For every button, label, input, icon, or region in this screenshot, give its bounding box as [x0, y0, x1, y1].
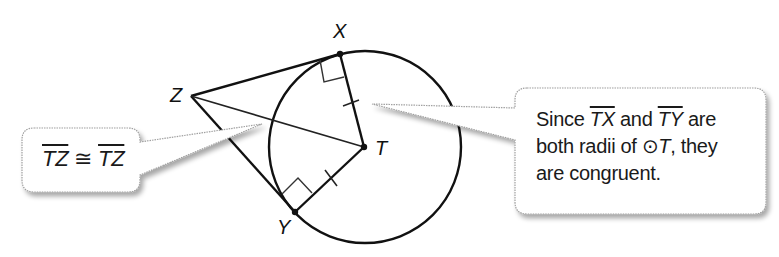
callout-right-text: Since TX and TY are both radii of ⊙T, th… — [536, 106, 717, 187]
callout-right-line-3: are congruent. — [536, 160, 717, 187]
label-Y: Y — [277, 216, 290, 239]
label-Z: Z — [170, 84, 182, 107]
segment-TX — [340, 54, 364, 147]
right-angle-mark-X — [320, 60, 344, 82]
point-X — [337, 51, 343, 57]
label-X: X — [333, 20, 346, 43]
segment-TY — [295, 147, 364, 212]
segment-ZY — [191, 96, 295, 212]
segment-TZ-b: TZ — [98, 146, 124, 171]
text: and — [615, 108, 658, 130]
point-Y — [292, 209, 298, 215]
segment-ZX — [191, 54, 340, 96]
callout-right-line-1: Since TX and TY are — [536, 106, 717, 133]
text: are — [683, 108, 716, 130]
point-T — [361, 144, 367, 150]
diagram-stage: X Z T Y TZ ≅ TZ Since TX and TY are both… — [0, 0, 779, 257]
right-angle-mark-Y — [282, 178, 312, 194]
congruent-symbol: ≅ — [74, 146, 92, 171]
text: , they — [670, 135, 717, 157]
circle-name: T — [658, 135, 670, 157]
segment-TZ-a: TZ — [42, 146, 68, 171]
segment-TX: TX — [590, 108, 615, 130]
segment-TY: TY — [658, 108, 683, 130]
callout-right-line-2: both radii of ⊙T, they — [536, 133, 717, 160]
text: both radii of — [536, 135, 642, 157]
circle-dot-icon: ⊙ — [642, 135, 658, 157]
label-T: T — [375, 137, 387, 160]
callout-left-text: TZ ≅ TZ — [42, 145, 124, 172]
text: Since — [536, 108, 590, 130]
